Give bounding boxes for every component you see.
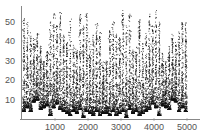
y-tick-label: 20 [5,75,15,85]
x-tick-label: 5000 [177,122,197,132]
x-tick-label: 4000 [144,122,164,132]
y-axis-ticks: 1020304050 [5,17,23,105]
x-tick-label: 2000 [78,122,98,132]
y-tick-label: 40 [5,36,15,46]
y-tick-label: 10 [5,95,15,105]
y-tick-label: 50 [5,17,15,27]
x-tick-label: 3000 [111,122,131,132]
scatter-chart: 1020304050 10002000300040005000 [0,0,202,137]
x-tick-label: 1000 [45,122,65,132]
x-axis-ticks: 10002000300040005000 [45,118,197,132]
data-points [22,10,188,118]
y-tick-label: 30 [5,56,15,66]
